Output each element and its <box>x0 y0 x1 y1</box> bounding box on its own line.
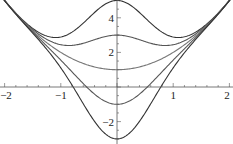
plot-area: −2−112 −224 <box>0 0 233 144</box>
x-tick-label: 1 <box>170 89 176 101</box>
curve-2 <box>0 0 233 45</box>
x-tick-label: 2 <box>224 89 230 101</box>
x-tick-label: −2 <box>0 89 12 101</box>
curves <box>0 0 233 139</box>
y-tick-label: 2 <box>109 46 115 58</box>
y-tick-label: 4 <box>109 12 115 24</box>
x-tick-label: −1 <box>55 89 67 101</box>
x-ticks: −2−112 <box>0 83 230 101</box>
curve-4 <box>0 0 233 104</box>
y-tick-label: −2 <box>102 116 114 128</box>
